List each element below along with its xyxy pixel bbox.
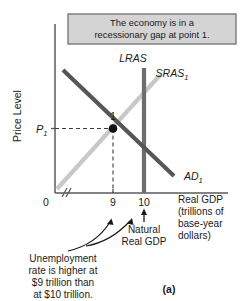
point-1-dot: [109, 124, 118, 133]
point-1-label: 1: [110, 111, 116, 122]
x-axis-title-line-1: Real GDP: [178, 194, 223, 205]
figure-label: (a): [163, 283, 176, 295]
ad-as-recessionary-gap-figure: The economy is in a recessionary gap at …: [0, 0, 246, 301]
natural-gdp-line-2: Real GDP: [121, 236, 166, 247]
x-axis-title-line-3: base-year: [178, 218, 223, 229]
callout-box: The economy is in a recessionary gap at …: [68, 14, 236, 44]
unemployment-line-1: Unemployment: [29, 253, 96, 264]
unemployment-line-3: $9 trillion than: [32, 277, 94, 288]
lras-label: LRAS: [119, 52, 146, 64]
unemployment-line-2: rate is higher at: [29, 265, 98, 276]
x-axis-title-line-2: (trillions of: [178, 206, 224, 217]
y-axis-title: Price Level: [11, 90, 23, 142]
x-axis-title-line-4: dollars): [178, 230, 211, 241]
callout-line-2: recessionary gap at point 1.: [94, 29, 209, 40]
natural-gdp-line-1: Natural: [128, 224, 160, 235]
origin-label: 0: [43, 196, 49, 208]
callout-line-1: The economy is in a: [110, 17, 195, 28]
unemployment-line-4: at $10 trillion.: [33, 289, 92, 300]
x-tick-label-10: 10: [138, 196, 150, 208]
x-tick-label-9: 9: [110, 196, 116, 208]
